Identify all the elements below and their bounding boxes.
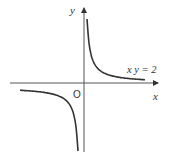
equation-label: x y = 2 [126,64,157,75]
y-axis-label: y [69,4,75,16]
hyperbola-branch-lower [20,90,78,151]
origin-label: O [73,89,81,100]
hyperbola-diagram: y x O x y = 2 [0,0,171,159]
x-axis-label: x [152,90,158,102]
